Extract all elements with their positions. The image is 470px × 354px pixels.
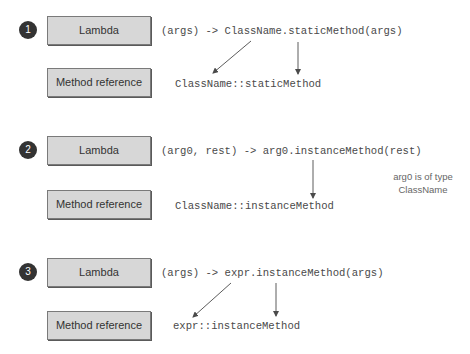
step-badge-1: 1 [19,21,37,39]
lambda-box-1: Lambda [47,16,151,45]
method-reference-expression-2: ClassName::instanceMethod [175,200,334,212]
step-badge-3: 3 [19,263,37,281]
arrow-classname-diagonal-1 [213,41,251,73]
method-reference-box-1: Method reference [47,68,151,97]
method-reference-expression-3: expr::instanceMethod [173,320,300,332]
method-reference-box-2: Method reference [47,190,151,219]
step-badge-2: 2 [19,141,37,159]
type-note-line-2: ClassName [385,183,461,196]
type-note: arg0 is of type ClassName [385,170,461,196]
lambda-expression-1: (args) -> ClassName.staticMethod(args) [161,25,403,37]
type-note-line-1: arg0 is of type [385,170,461,183]
method-reference-box-3: Method reference [47,311,151,340]
lambda-expression-3: (args) -> expr.instanceMethod(args) [161,267,384,279]
lambda-expression-2: (arg0, rest) -> arg0.instanceMethod(rest… [161,145,422,157]
lambda-box-2: Lambda [47,136,151,165]
lambda-box-3: Lambda [47,258,151,287]
method-reference-expression-1: ClassName::staticMethod [175,78,321,90]
arrow-expr-diagonal-3 [193,283,231,317]
